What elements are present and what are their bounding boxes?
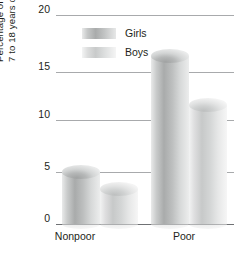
bar-boys-nonpoor [100, 182, 138, 224]
x-tick-label-nonpoor: Nonpoor [42, 231, 108, 242]
bar-top-ellipse [62, 165, 100, 179]
y-axis-title-line-2: 7 to 18 years of age [6, 0, 18, 62]
gridline-20: 20 [56, 15, 234, 16]
bar-chart: Percentage of children 7 to 18 years of … [0, 0, 248, 256]
y-tick-label-0: 0 [44, 213, 50, 224]
legend-label-boys: Boys [125, 46, 148, 58]
legend-item-boys: Boys [82, 46, 148, 58]
bar-body [62, 172, 100, 224]
bar-top-ellipse [189, 98, 227, 112]
legend-swatch-girls-icon [82, 28, 116, 39]
y-tick-label-10: 10 [38, 109, 50, 120]
legend-item-girls: Girls [82, 27, 148, 39]
y-tick-label-5: 5 [44, 161, 50, 172]
bar-boys-poor [189, 98, 227, 224]
legend: Girls Boys [82, 27, 148, 65]
bar-body [151, 56, 189, 224]
legend-swatch-boys-icon [82, 47, 116, 58]
bar-girls-nonpoor [62, 165, 100, 224]
y-tick-label-15: 15 [38, 61, 50, 72]
x-tick-label-poor: Poor [156, 231, 212, 242]
legend-label-girls: Girls [125, 27, 147, 39]
y-axis-title: Percentage of children 7 to 18 years of … [0, 0, 19, 62]
bar-top-ellipse [151, 49, 189, 63]
bar-body [189, 105, 227, 224]
bar-girls-poor [151, 49, 189, 224]
bar-top-ellipse [100, 182, 138, 196]
gridline-15: 15 [56, 72, 234, 73]
y-tick-label-20: 20 [38, 4, 50, 15]
